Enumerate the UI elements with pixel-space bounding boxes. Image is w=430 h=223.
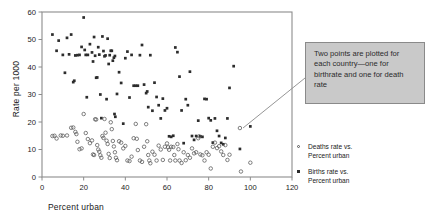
data-point	[159, 148, 163, 152]
x-tick-label: 80	[204, 183, 212, 192]
data-point	[136, 84, 139, 87]
open-circle-marker-icon	[297, 145, 300, 148]
legend-label-births-line1: Births rate vs.	[308, 168, 348, 175]
data-point	[144, 122, 148, 126]
plot-frame	[42, 12, 292, 177]
data-point	[96, 76, 99, 79]
legend-label-births-line2: Percent urban	[308, 176, 426, 185]
data-point	[134, 122, 138, 126]
data-point	[211, 145, 215, 149]
data-point	[112, 145, 116, 149]
filled-square-marker-icon	[297, 170, 300, 173]
x-tick-label: 40	[121, 183, 129, 192]
data-point	[174, 159, 178, 163]
data-point	[110, 127, 114, 131]
data-point	[76, 140, 80, 144]
chart-legend: Deaths rate vs. Percent urban Births rat…	[296, 142, 426, 192]
data-point	[104, 54, 107, 57]
data-point	[86, 54, 89, 57]
y-tick-label: 30	[28, 90, 36, 99]
x-tick-label: 0	[40, 183, 44, 192]
data-point	[165, 142, 169, 146]
data-point	[80, 46, 83, 49]
data-point	[166, 107, 169, 110]
data-point	[176, 142, 180, 146]
data-point	[232, 65, 235, 68]
data-point	[130, 54, 133, 57]
data-point	[219, 150, 223, 154]
data-point	[51, 33, 54, 36]
data-point	[122, 122, 125, 125]
data-point	[64, 71, 67, 74]
x-axis-label: Percent urban	[48, 202, 104, 212]
data-point	[102, 50, 105, 53]
data-point	[147, 106, 150, 109]
data-point	[239, 148, 242, 151]
legend-item-births: Births rate vs. Percent urban	[296, 167, 426, 185]
data-point	[136, 148, 140, 152]
data-point	[249, 161, 253, 165]
data-point	[209, 119, 212, 122]
data-point	[226, 117, 229, 120]
data-point	[82, 112, 86, 116]
data-point	[153, 153, 157, 157]
data-point	[110, 49, 113, 52]
data-point	[205, 98, 208, 101]
data-point	[224, 137, 227, 140]
data-point	[126, 50, 129, 53]
data-point	[120, 82, 123, 85]
data-point	[70, 33, 73, 36]
data-point	[177, 147, 181, 151]
data-point	[226, 158, 230, 162]
data-point	[107, 63, 110, 66]
data-point	[124, 144, 128, 148]
data-point	[108, 54, 111, 57]
data-point	[203, 159, 207, 163]
data-point	[101, 35, 104, 38]
data-point	[84, 131, 88, 135]
data-point	[128, 96, 131, 99]
data-point	[107, 152, 111, 156]
data-point	[145, 140, 149, 144]
data-point	[172, 134, 175, 137]
data-point	[201, 136, 204, 139]
data-point	[155, 159, 159, 163]
data-point	[104, 131, 108, 135]
data-point	[55, 49, 58, 52]
data-point	[238, 126, 242, 130]
data-point	[94, 54, 97, 57]
data-point	[68, 53, 71, 56]
data-point	[85, 96, 88, 99]
data-point	[143, 83, 146, 86]
data-point	[186, 104, 189, 107]
data-point	[173, 153, 177, 157]
data-point	[190, 147, 194, 151]
data-point	[93, 36, 96, 39]
data-point	[106, 37, 109, 40]
data-point	[89, 43, 92, 46]
data-point	[174, 46, 177, 49]
data-point	[249, 125, 252, 128]
data-point	[161, 97, 164, 100]
y-tick-label: 40	[28, 63, 36, 72]
data-point	[95, 143, 99, 147]
legend-item-deaths: Deaths rate vs. Percent urban	[296, 142, 426, 160]
data-point	[159, 117, 162, 120]
data-point	[153, 81, 156, 84]
data-point	[228, 87, 231, 90]
data-point	[92, 60, 95, 63]
scatter-plot-figure: 0204060801001200102030405060 Rate per 10…	[0, 0, 430, 223]
data-point	[151, 109, 154, 112]
data-point	[184, 98, 187, 101]
annotation-callout: Two points are plotted for each country—…	[305, 42, 425, 104]
data-point	[114, 55, 117, 58]
data-point	[161, 158, 165, 162]
data-point	[191, 135, 194, 138]
data-point	[157, 144, 161, 148]
data-point	[155, 96, 158, 99]
data-point	[98, 53, 101, 56]
data-point	[82, 16, 85, 19]
data-point	[113, 151, 117, 155]
data-point	[149, 54, 152, 57]
data-point	[100, 117, 103, 120]
